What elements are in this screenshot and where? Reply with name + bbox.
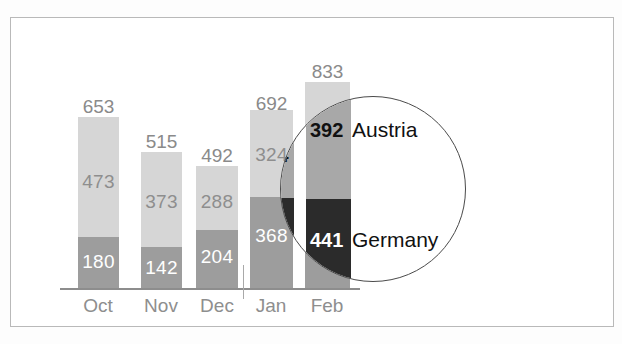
- callout-value-austria: 392: [310, 120, 343, 140]
- x-axis-label-jan: Jan: [241, 296, 301, 315]
- bar-total-label: 515: [141, 132, 182, 151]
- callout-label-austria: Austria: [352, 119, 417, 140]
- bar-total-label: 492: [196, 146, 238, 165]
- screenshot-stage: 653 473 180 515 373 142 492 288 204 692 …: [0, 0, 622, 344]
- callout-bar-segment-austria[interactable]: [306, 96, 351, 199]
- callout-segment-value-austria: 324: [280, 146, 294, 165]
- x-axis-label-oct: Oct: [68, 296, 128, 315]
- segment-value-austria: 473: [78, 172, 119, 191]
- bar-total-label: 833: [305, 62, 350, 81]
- segment-value-austria: 373: [141, 192, 182, 211]
- segment-value-germany: 142: [141, 258, 182, 277]
- segment-value-germany: 204: [196, 247, 238, 266]
- segment-value-austria: 288: [196, 192, 238, 211]
- callout-segment-value-germany: 368: [280, 227, 294, 246]
- bar-group-dec[interactable]: 492 288 204: [196, 0, 238, 344]
- x-axis-label-feb: Feb: [297, 296, 357, 315]
- callout-bar-group-jan[interactable]: 324 368: [280, 96, 294, 282]
- x-axis-label-nov: Nov: [131, 296, 191, 315]
- axis-separator-tick: [243, 265, 244, 299]
- bar-group-oct[interactable]: 653 473 180: [78, 0, 119, 344]
- x-axis-label-dec: Dec: [187, 296, 247, 315]
- bar-group-nov[interactable]: 515 373 142: [141, 0, 182, 344]
- segment-value-germany: 180: [78, 252, 119, 271]
- callout-value-germany: 441: [310, 230, 343, 250]
- bar-total-label: 653: [78, 97, 119, 116]
- callout-label-germany: Germany: [352, 229, 438, 250]
